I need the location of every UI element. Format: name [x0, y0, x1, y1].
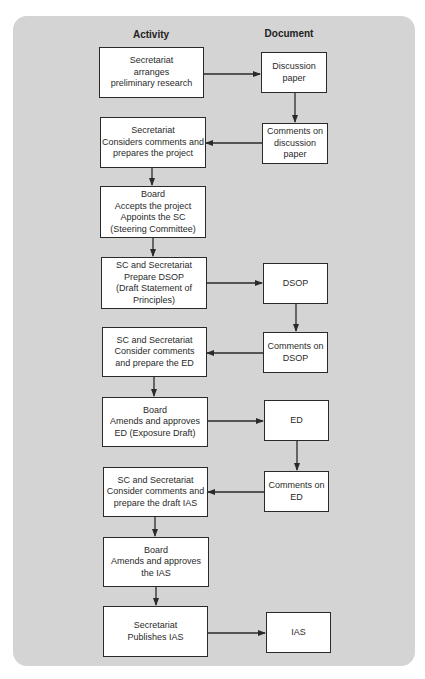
- activity-label: SC and Secretariat Consider comments and…: [114, 335, 194, 370]
- activity-board-approves-ias: Board Amends and approves the IAS: [103, 537, 209, 587]
- document-dsop: DSOP: [263, 263, 328, 304]
- activity-label: Board Accepts the project Appoints the S…: [110, 189, 196, 235]
- activity-label: Board Amends and approves ED (Exposure D…: [110, 405, 200, 440]
- activity-label: Secretariat Publishes IAS: [127, 620, 183, 643]
- flow-arrows: [0, 0, 425, 679]
- activity-publishes-ias: Secretariat Publishes IAS: [103, 606, 208, 657]
- document-label: Discussion paper: [272, 61, 316, 84]
- document-label: Comments on discussion paper: [267, 126, 323, 161]
- activity-prepare-dsop: SC and Secretariat Prepare DSOP (Draft S…: [101, 257, 207, 309]
- document-comments-ed: Comments on ED: [264, 471, 329, 512]
- activity-label: SC and Secretariat Consider comments and…: [107, 475, 205, 510]
- document-label: Comments on ED: [268, 480, 324, 503]
- document-label: Comments on DSOP: [267, 341, 323, 364]
- activity-prepare-draft-ias: SC and Secretariat Consider comments and…: [103, 467, 208, 517]
- document-discussion-paper: Discussion paper: [261, 52, 327, 93]
- activity-preliminary-research: Secretariat arranges preliminary researc…: [99, 47, 204, 98]
- activity-label: SC and Secretariat Prepare DSOP (Draft S…: [116, 260, 192, 306]
- document-ed: ED: [264, 400, 329, 441]
- activity-label: Board Amends and approves the IAS: [111, 545, 201, 580]
- document-ias: IAS: [266, 612, 331, 653]
- document-label: DSOP: [283, 278, 309, 290]
- activity-prepare-ed: SC and Secretariat Consider comments and…: [102, 327, 207, 377]
- document-label: ED: [290, 415, 303, 427]
- document-comments-discussion-paper: Comments on discussion paper: [262, 123, 328, 164]
- document-comments-dsop: Comments on DSOP: [263, 332, 328, 373]
- activity-board-accepts-project: Board Accepts the project Appoints the S…: [100, 186, 206, 238]
- activity-label: Secretariat Considers comments and prepa…: [102, 125, 204, 160]
- activity-prepare-project: Secretariat Considers comments and prepa…: [100, 117, 206, 168]
- document-label: IAS: [291, 627, 306, 639]
- activity-label: Secretariat arranges preliminary researc…: [111, 55, 193, 90]
- activity-board-approves-ed: Board Amends and approves ED (Exposure D…: [102, 397, 208, 447]
